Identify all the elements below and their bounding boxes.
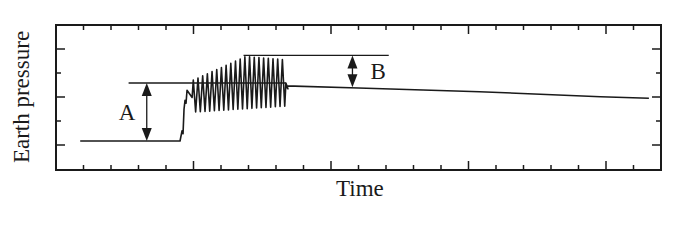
pressure-curve	[80, 57, 649, 141]
arrow-head-up-icon	[142, 83, 152, 96]
arrow-head-up-icon	[347, 55, 357, 68]
arrow-head-down-icon	[347, 74, 357, 87]
pressure-line	[80, 57, 649, 141]
annotation-label-b: B	[370, 59, 385, 84]
arrow-head-down-icon	[142, 128, 152, 141]
annotation-label-a: A	[119, 100, 136, 125]
x-axis-label: Time	[336, 176, 384, 202]
